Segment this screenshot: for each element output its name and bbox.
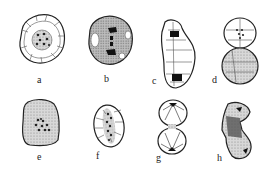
panel-label-b: b	[104, 74, 109, 84]
cell-c	[161, 20, 195, 88]
cell-a	[20, 15, 65, 63]
cell-f	[91, 103, 127, 149]
panel-label-g: g	[156, 153, 161, 163]
cell-b	[89, 16, 132, 64]
panel-label-h: h	[217, 153, 222, 163]
cell-e	[23, 100, 60, 146]
panel-label-c: c	[152, 76, 156, 86]
panel-label-f: f	[96, 151, 99, 161]
cell-g	[158, 100, 187, 154]
cell-division-figure	[0, 0, 275, 172]
panel-label-e: e	[37, 152, 41, 162]
panel-label-d: d	[212, 75, 217, 85]
cell-h	[222, 102, 251, 158]
panel-label-a: a	[37, 75, 41, 85]
cell-d	[222, 18, 258, 84]
